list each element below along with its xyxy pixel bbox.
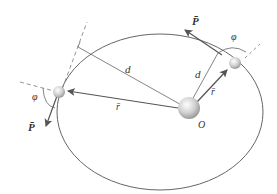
- central-body: [178, 97, 200, 119]
- tangent-dashed-right: [245, 44, 260, 58]
- label-distance-right: d: [195, 68, 201, 80]
- label-angle-right: φ: [231, 31, 237, 42]
- label-origin: O: [198, 119, 205, 130]
- orbiting-body-right: [229, 57, 241, 69]
- label-radius-left: r̄: [116, 101, 121, 112]
- orbit-diagram: P̄ P̄ φ φ d d r̄ r̄ O: [0, 0, 277, 194]
- angle-arc-right: [218, 48, 246, 53]
- label-angle-left: φ: [32, 91, 38, 102]
- orbit-ellipse: [57, 34, 263, 190]
- perpendicular-line-upper: [78, 47, 185, 107]
- orbiting-body-left: [53, 86, 65, 98]
- momentum-arrow-right: [185, 30, 222, 55]
- label-radius-right: r̄: [211, 86, 216, 97]
- label-momentum-right: P̄: [192, 15, 199, 27]
- perpendicular-corner-upper: [78, 42, 80, 47]
- momentum-arrow-left: [46, 96, 57, 126]
- radial-dashed-left: [20, 82, 58, 92]
- label-momentum-left: P̄: [28, 121, 35, 133]
- label-distance-upper: d: [125, 63, 131, 75]
